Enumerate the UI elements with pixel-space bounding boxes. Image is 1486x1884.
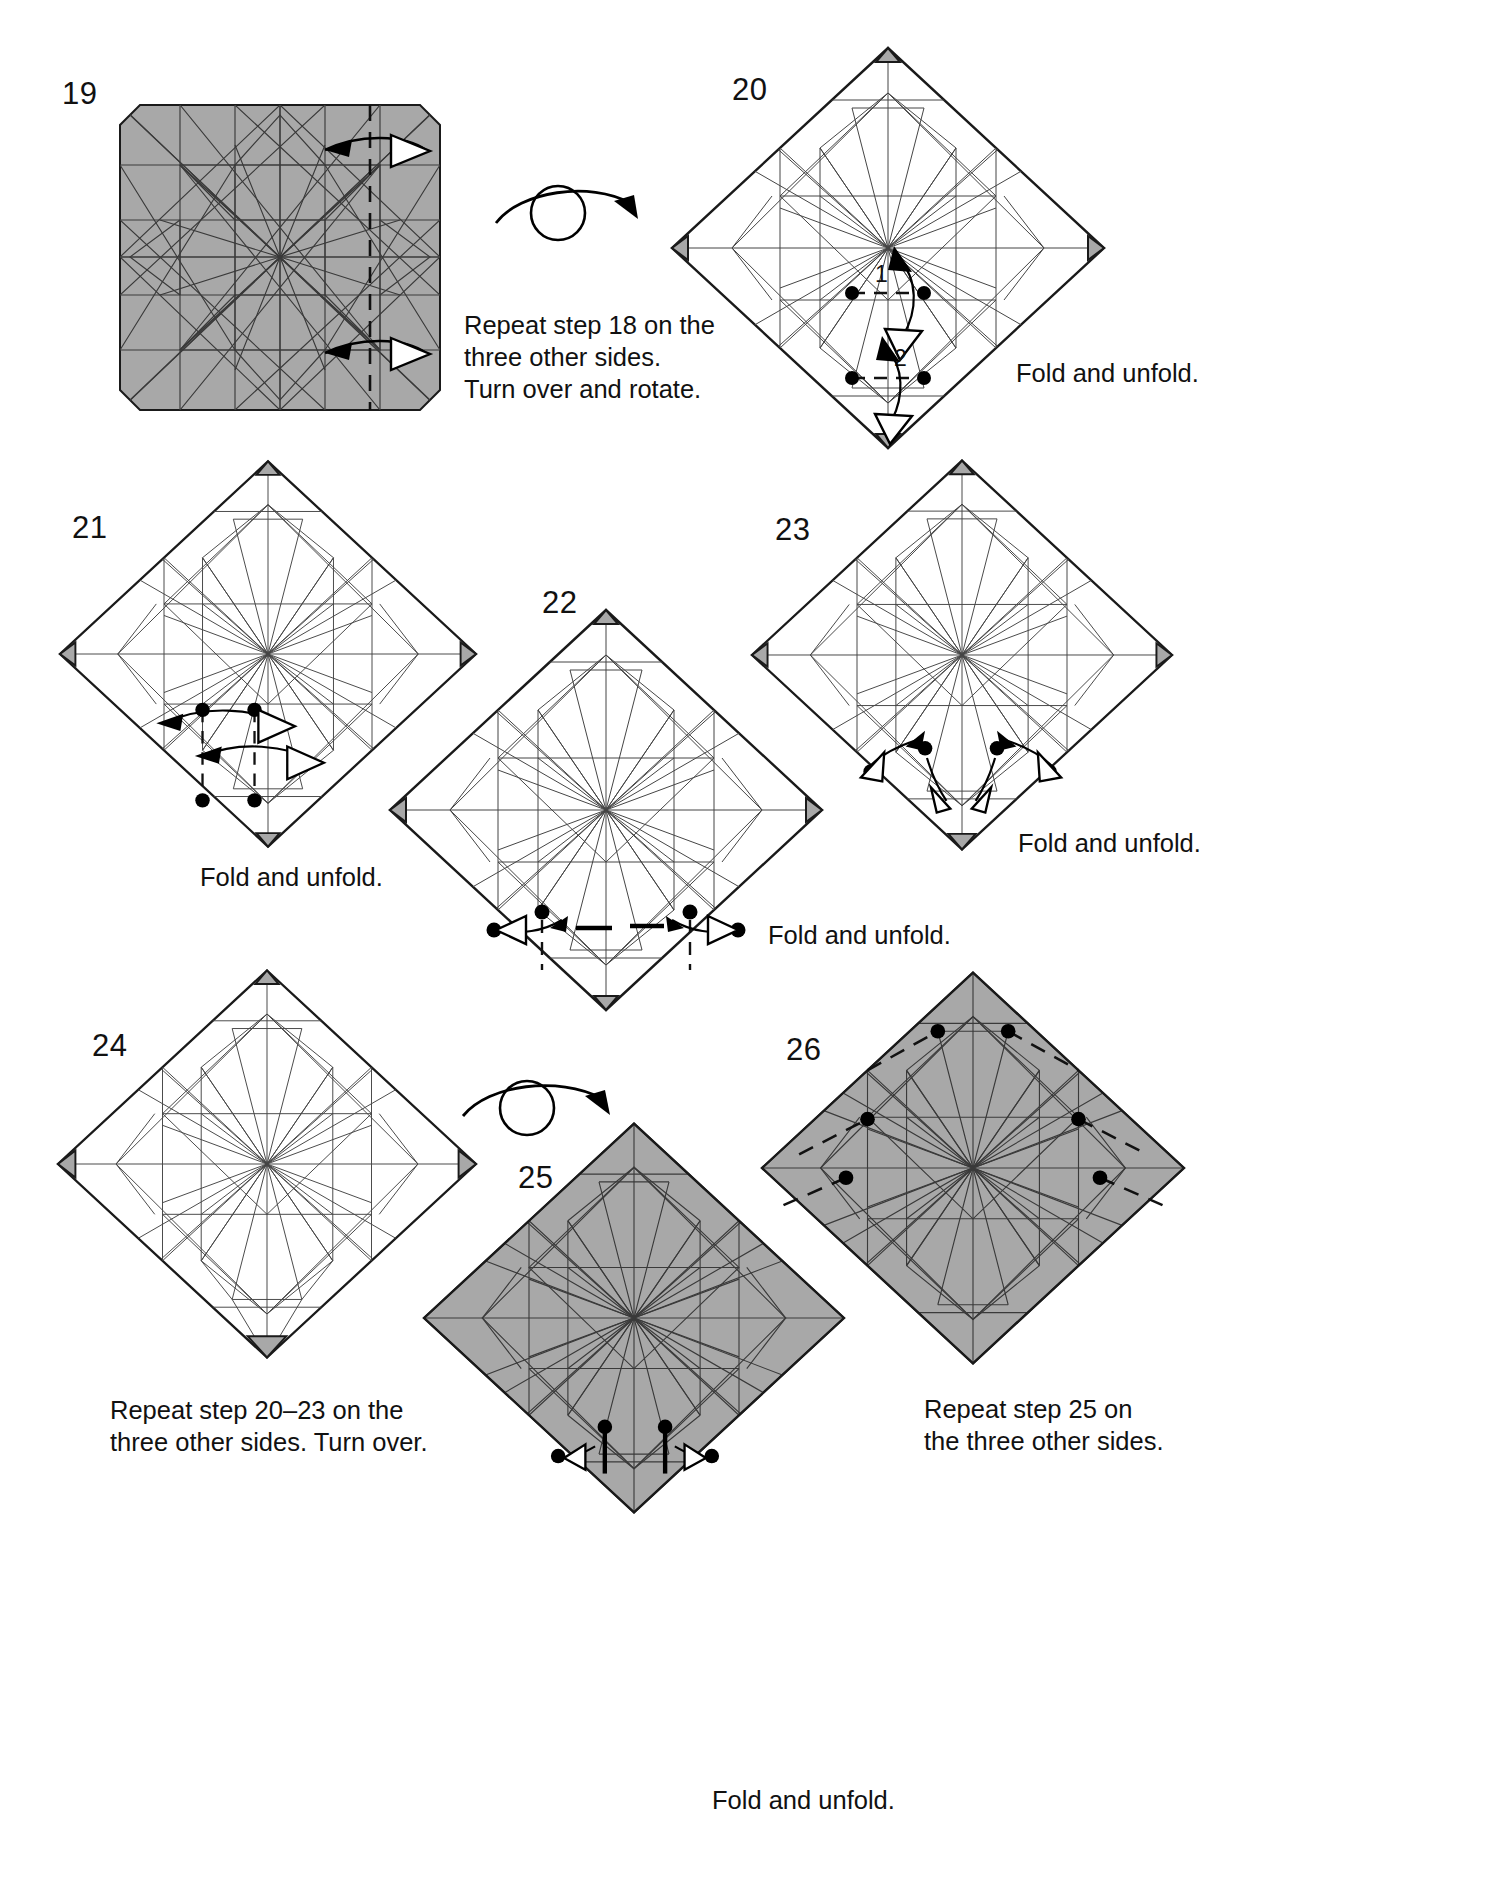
reference-dot (704, 1449, 719, 1464)
fold-arrow-outer-left (861, 731, 925, 782)
caption-step-23: Fold and unfold. (1018, 828, 1201, 860)
step-24-figure (58, 960, 476, 1368)
step-19-figure (120, 105, 440, 410)
reference-dot (917, 371, 931, 385)
reference-dot (1071, 1112, 1086, 1127)
turn-over-circle-icon (531, 186, 585, 240)
reference-dot (551, 1449, 566, 1464)
reference-dot (247, 793, 261, 807)
caption-step-22: Fold and unfold. (768, 920, 951, 952)
reference-dot (845, 286, 859, 300)
reference-dot (917, 286, 931, 300)
reference-dot (1001, 1024, 1016, 1039)
instruction-repeat-step-25: Repeat step 25 on the three other sides. (924, 1394, 1244, 1458)
arrow-label-1: 1 (875, 261, 888, 287)
caption-step-25: Fold and unfold. (712, 1785, 895, 1817)
step-26-crease-pattern (762, 962, 1184, 1374)
reference-dot (598, 1420, 613, 1435)
step-26-figure (762, 962, 1184, 1374)
reference-dot (658, 1420, 673, 1435)
reference-dot (535, 905, 550, 920)
reference-dot (931, 1024, 946, 1039)
fold-arrow-left (496, 916, 568, 944)
reference-dot (195, 793, 209, 807)
instruction-repeat-step-20-23: Repeat step 20–23 on the three other sid… (110, 1395, 440, 1459)
reference-dot (860, 1112, 875, 1127)
diagram-page: 19 (0, 0, 1486, 1884)
step-23-figure (752, 455, 1172, 855)
reference-dot (845, 371, 859, 385)
fold-arrow-inner-right (972, 758, 995, 812)
reference-dot (1093, 1170, 1108, 1185)
step-number-19: 19 (62, 76, 97, 112)
turn-over-symbol-19-20 (490, 175, 650, 245)
reference-dot (683, 905, 698, 920)
fold-arrow-1 (885, 246, 922, 360)
reference-dot (195, 703, 209, 717)
step-23-crease-pattern (752, 455, 1172, 855)
reference-dot (839, 1170, 854, 1185)
caption-step-21: Fold and unfold. (200, 862, 383, 894)
step-19-crease-pattern (120, 105, 440, 410)
caption-step-20: Fold and unfold. (1016, 358, 1199, 390)
step-24-crease-pattern (58, 960, 476, 1368)
fold-arrow-inner-left (927, 758, 950, 812)
corner-flap-bottom (248, 1336, 287, 1357)
